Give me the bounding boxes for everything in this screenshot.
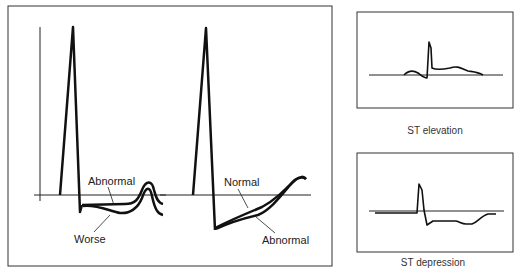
- right-waveform: [193, 28, 306, 230]
- st-depression-panel: ST depression: [357, 153, 513, 268]
- ecg-diagram: Abnormal Worse Normal Abnormal ST elevat…: [0, 0, 518, 279]
- main-panel-border: [8, 6, 332, 266]
- st-depression-trace: [375, 184, 496, 225]
- st-elevation-trace: [404, 42, 483, 78]
- label-normal: Normal: [224, 176, 259, 188]
- caption-st-depression: ST depression: [401, 257, 465, 268]
- label-abnormal-right: Abnormal: [262, 234, 309, 246]
- qrs-complex-left: [60, 27, 82, 212]
- worse-st-segment: [83, 189, 163, 215]
- label-abnormal-left: Abnormal: [88, 175, 135, 187]
- leader-normal: [238, 189, 248, 208]
- caption-st-elevation: ST elevation: [407, 125, 462, 136]
- main-panel: Abnormal Worse Normal Abnormal: [8, 6, 332, 266]
- label-worse: Worse: [74, 233, 106, 245]
- leader-abnormal-right: [256, 217, 275, 233]
- leader-worse: [94, 215, 110, 232]
- qrs-complex-right: [193, 28, 215, 230]
- leader-abnormal-left: [108, 187, 114, 205]
- st-depression-border: [357, 153, 513, 252]
- st-elevation-panel: ST elevation: [357, 12, 513, 136]
- st-elevation-border: [357, 12, 513, 108]
